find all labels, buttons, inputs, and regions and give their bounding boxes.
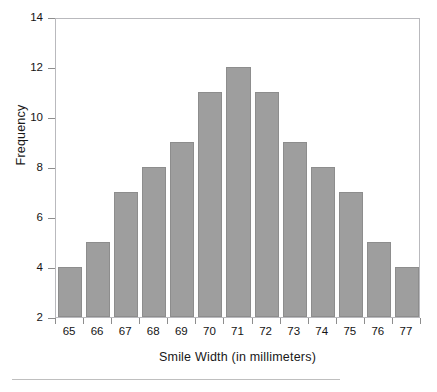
bar <box>58 267 82 317</box>
y-axis-tick-label: 12 <box>13 62 43 74</box>
x-axis-tick <box>139 318 140 324</box>
x-axis-title: Smile Width (in millimeters) <box>55 350 420 364</box>
bar <box>86 242 110 317</box>
bar <box>114 192 138 317</box>
y-axis-title: Frequency <box>14 80 28 190</box>
bar <box>367 242 391 317</box>
x-axis-tick <box>55 318 56 324</box>
y-axis-tick-label: 10 <box>13 112 43 124</box>
bar <box>395 267 419 317</box>
y-axis-tick <box>48 168 55 169</box>
x-axis-tick <box>308 318 309 324</box>
bar <box>255 92 279 317</box>
y-axis-tick-label: 14 <box>13 12 43 24</box>
y-axis-tick <box>48 318 55 319</box>
bar <box>170 142 194 317</box>
x-axis-tick <box>336 318 337 324</box>
bar <box>142 167 166 317</box>
x-axis-tick <box>111 318 112 324</box>
x-axis-tick <box>195 318 196 324</box>
x-axis-tick <box>223 318 224 324</box>
y-axis-tick-label: 6 <box>13 212 43 224</box>
bar <box>226 67 250 317</box>
x-axis-tick <box>83 318 84 324</box>
plot-area <box>55 18 420 318</box>
footer-divider <box>12 379 340 380</box>
y-axis-tick <box>48 268 55 269</box>
y-axis-tick-label: 2 <box>13 312 43 324</box>
x-axis-tick <box>392 318 393 324</box>
histogram-figure: Frequency 2468101214 6566676869707172737… <box>0 0 437 392</box>
bar-group <box>56 19 419 317</box>
y-axis-tick <box>48 68 55 69</box>
bar <box>283 142 307 317</box>
y-axis-tick-label: 8 <box>13 162 43 174</box>
x-axis-tick <box>420 318 421 324</box>
x-axis-tick <box>364 318 365 324</box>
y-axis-tick <box>48 118 55 119</box>
y-axis-tick <box>48 218 55 219</box>
x-axis-tick-label: 77 <box>386 326 426 338</box>
y-axis-tick-label: 4 <box>13 262 43 274</box>
bar <box>311 167 335 317</box>
x-axis-tick <box>167 318 168 324</box>
x-axis-tick <box>280 318 281 324</box>
bar <box>339 192 363 317</box>
y-axis-tick <box>48 18 55 19</box>
x-axis-tick <box>252 318 253 324</box>
bar <box>198 92 222 317</box>
